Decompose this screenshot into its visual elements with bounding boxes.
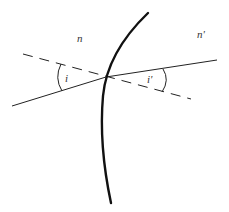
angle-label-i-prime: i' (147, 73, 153, 85)
incident-ray (12, 77, 106, 106)
medium-label-n-prime: n' (197, 28, 206, 40)
angle-arc-i (58, 64, 62, 91)
refracted-ray (106, 60, 217, 77)
medium-label-n: n (77, 32, 83, 44)
angle-arc-i-prime (162, 69, 166, 92)
interface-curve (102, 13, 148, 203)
angle-label-i: i (65, 72, 68, 84)
refraction-diagram: n n' i i' (0, 0, 229, 212)
